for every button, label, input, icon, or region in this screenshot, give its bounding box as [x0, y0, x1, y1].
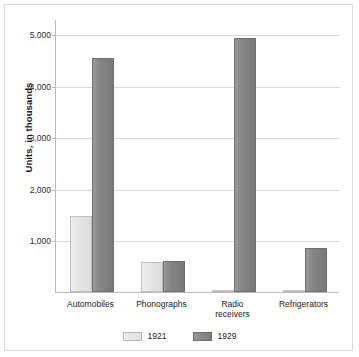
legend-swatch — [193, 332, 212, 341]
plot-area: 5,0004,0003,0002,0001,000 — [55, 20, 339, 293]
y-tick-mark — [52, 35, 56, 36]
bar — [163, 261, 185, 292]
legend-swatch — [123, 332, 142, 341]
x-category-label: Refrigerators — [268, 299, 339, 309]
legend-label: 1929 — [218, 331, 237, 341]
y-tick-mark — [52, 138, 56, 139]
bar — [305, 248, 327, 292]
bar — [141, 262, 163, 292]
y-tick-mark — [52, 190, 56, 191]
legend-item: 1929 — [193, 331, 237, 341]
x-category-label: Phonographs — [126, 299, 197, 309]
y-tick-mark — [52, 87, 56, 88]
y-tick-label: 1,000 — [30, 236, 51, 246]
bar — [234, 38, 256, 292]
y-tick-label: 5,000 — [30, 30, 51, 40]
y-tick-label: 4,000 — [30, 82, 51, 92]
x-category-label: Radio receivers — [197, 299, 268, 319]
y-tick-label: 3,000 — [30, 133, 51, 143]
bar — [70, 216, 92, 292]
legend-item: 1921 — [123, 331, 167, 341]
y-tick-label: 2,000 — [30, 185, 51, 195]
bar — [283, 290, 305, 292]
chart-legend: 19211929 — [0, 331, 359, 341]
y-tick-mark — [52, 241, 56, 242]
x-category-label: Automobiles — [55, 299, 126, 309]
bar — [212, 290, 234, 292]
bar-chart-figure: Units, in thousands 5,0004,0003,0002,000… — [0, 0, 359, 357]
legend-label: 1921 — [148, 331, 167, 341]
bar — [92, 58, 114, 292]
y-axis-title: Units, in thousands — [23, 48, 34, 208]
gridline — [56, 35, 340, 36]
